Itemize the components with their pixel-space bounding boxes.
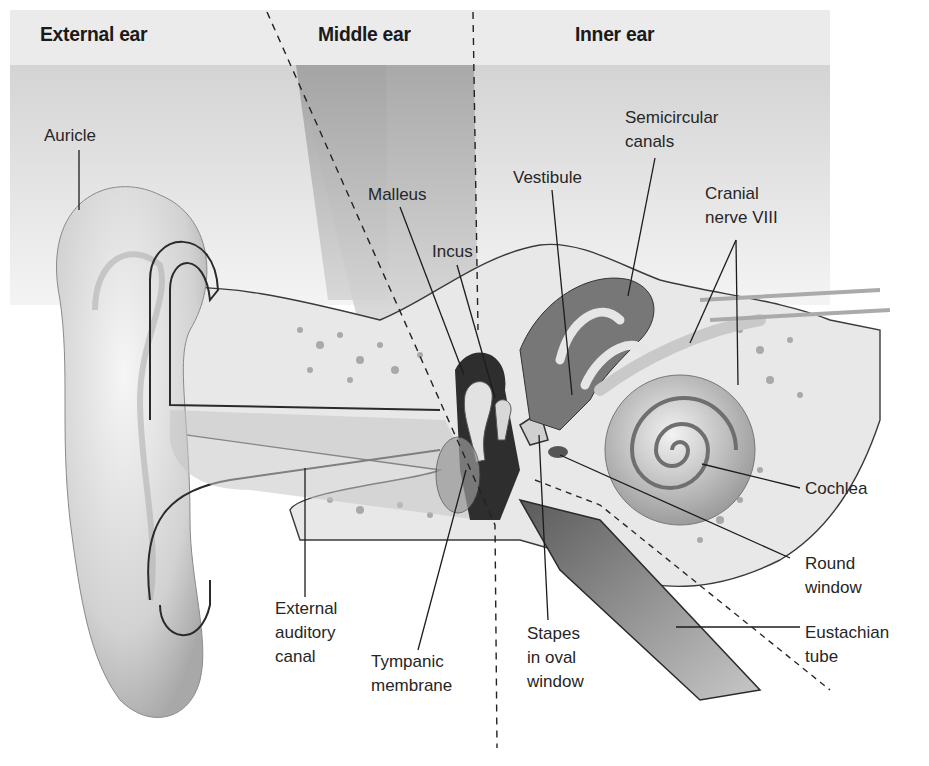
region-header-middle: Middle ear — [318, 22, 411, 46]
region-header-external: External ear — [40, 22, 147, 46]
label-eustachian-tube: Eustachian tube — [805, 621, 889, 669]
label-round-window: Round window — [805, 552, 862, 600]
ear-illustration — [0, 0, 929, 766]
label-cranial-nerve-viii: Cranial nerve VIII — [705, 182, 778, 230]
label-external-auditory-canal: External auditory canal — [275, 597, 337, 669]
region-header-inner: Inner ear — [575, 22, 654, 46]
label-vestibule: Vestibule — [513, 166, 582, 190]
label-incus: Incus — [432, 240, 473, 264]
ear-anatomy-diagram: External ear Middle ear Inner ear Auricl… — [0, 0, 929, 766]
label-stapes-in-oval-window: Stapes in oval window — [527, 622, 584, 694]
label-tympanic-membrane: Tympanic membrane — [371, 650, 452, 698]
label-auricle: Auricle — [44, 124, 96, 148]
label-cochlea: Cochlea — [805, 477, 867, 501]
label-semicircular-canals: Semicircular canals — [625, 106, 719, 154]
label-malleus: Malleus — [368, 183, 427, 207]
